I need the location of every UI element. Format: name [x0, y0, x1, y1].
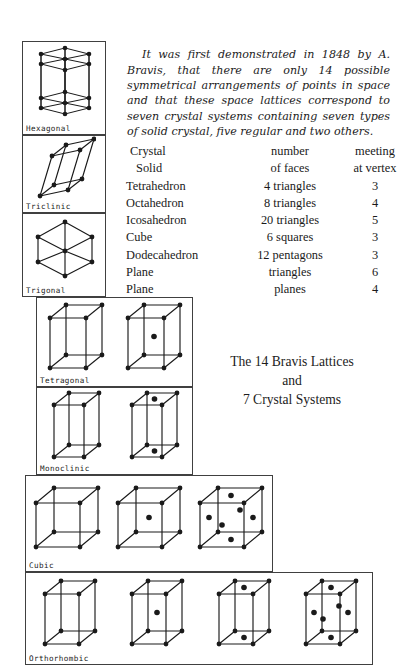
cell-faces: planes: [241, 281, 339, 298]
lattice-cell-monoclinic-simple: [37, 388, 115, 462]
lattice-cell-orthorhombic-face-centered: [287, 573, 374, 651]
lattice-panel-label: Monoclinic: [40, 464, 90, 473]
title-line-3: 7 Crystal Systems: [196, 390, 388, 409]
column-header-faces: number: [241, 143, 339, 160]
cell-vertex: 4: [344, 281, 401, 298]
table-row: Icosahedron 20 triangles 5: [126, 212, 394, 229]
table-row: Cube 6 squares 3: [126, 229, 394, 246]
intro-paragraph: It was first demonstrated in 1848 by A. …: [127, 47, 390, 139]
lattice-cell-orthorhombic-body-centered: [113, 573, 200, 651]
platonic-solids-table: Crystal number meeting Solid of faces at…: [126, 143, 394, 299]
column-subheader-vertex: at vertex: [344, 160, 401, 177]
table-header-row-1: Crystal number meeting: [126, 143, 394, 160]
lattice-panel-label: Hexagonal: [26, 124, 71, 133]
cell-faces: 20 triangles: [241, 212, 339, 229]
column-subheader-faces: of faces: [241, 160, 339, 177]
lattice-panel-label: Orthorhombic: [29, 654, 89, 663]
lattice-cell-orthorhombic-simple: [26, 573, 113, 651]
lattice-cell-cubic-face-centered: [190, 476, 272, 558]
cell-solid: Dodecahedron: [126, 247, 198, 264]
lattice-panel-label: Trigonal: [26, 286, 66, 295]
lattice-panel-label: Tetragonal: [40, 376, 90, 385]
cell-faces: 12 pentagons: [241, 247, 339, 264]
cell-faces: 6 squares: [241, 229, 339, 246]
column-header-solid: Crystal: [130, 143, 166, 160]
cell-vertex: 3: [344, 229, 401, 246]
column-subheader-solid: Solid: [136, 160, 162, 177]
lattice-cell-orthorhombic-base-centered: [200, 573, 287, 651]
cell-vertex: 3: [344, 178, 401, 195]
lattice-panel-cubic: Cubic: [25, 475, 273, 572]
cell-faces: triangles: [241, 264, 339, 281]
table-header-row-2: Solid of faces at vertex: [126, 160, 394, 177]
lattice-cell-row: [37, 388, 192, 462]
cell-solid: Octahedron: [126, 195, 184, 212]
cell-vertex: 6: [344, 264, 401, 281]
table-row: Tetrahedron 4 triangles 3: [126, 178, 394, 195]
cell-solid: Cube: [126, 229, 152, 246]
title-block: The 14 Bravis Lattices and 7 Crystal Sys…: [196, 352, 388, 409]
lattice-cell-row: [26, 573, 372, 651]
lattice-panel-monoclinic: Monoclinic: [36, 387, 193, 475]
lattice-cell-monoclinic-base-centered: [115, 388, 193, 462]
cell-faces: 4 triangles: [241, 178, 339, 195]
lattice-cell-tetragonal-simple: [37, 298, 115, 374]
column-header-vertex: meeting: [344, 143, 401, 160]
lattice-cell-row: [23, 42, 105, 122]
lattice-panel-hexagonal: Hexagonal: [22, 41, 106, 135]
lattice-panel-triclinic: Triclinic: [22, 135, 106, 213]
lattice-cell-row: [37, 298, 192, 374]
lattice-cell-cubic-simple: [26, 476, 108, 558]
lattice-panel-tetragonal: Tetragonal: [36, 297, 193, 387]
title-line-1: The 14 Bravis Lattices: [196, 352, 388, 371]
lattice-cell-cubic-body-centered: [108, 476, 190, 558]
table-row: Octahedron 8 triangles 4: [126, 195, 394, 212]
lattice-panel-orthorhombic: Orthorhombic: [25, 572, 373, 665]
table-row: Plane triangles 6: [126, 264, 394, 281]
lattice-panel-label: Triclinic: [26, 202, 71, 211]
lattice-cell-row: [23, 214, 105, 284]
cell-vertex: 5: [344, 212, 401, 229]
lattice-cell-rhombohedral: [23, 214, 107, 284]
lattice-panel-trigonal: Trigonal: [22, 213, 106, 297]
lattice-cell-row: [23, 136, 105, 200]
cell-faces: 8 triangles: [241, 195, 339, 212]
table-row: Dodecahedron 12 pentagons 3: [126, 247, 394, 264]
lattice-panel-label: Cubic: [29, 561, 54, 570]
cell-solid: Icosahedron: [126, 212, 187, 229]
lattice-cell-row: [26, 476, 272, 558]
lattice-cell-triclinic-simple: [23, 136, 107, 200]
lattice-cell-hexagonal-prism: [23, 42, 107, 122]
cell-solid: Tetrahedron: [126, 178, 186, 195]
title-line-2: and: [196, 371, 388, 390]
lattice-cell-tetragonal-body-centered: [115, 298, 193, 374]
cell-solid: Plane: [126, 264, 154, 281]
cell-vertex: 3: [344, 247, 401, 264]
cell-vertex: 4: [344, 195, 401, 212]
